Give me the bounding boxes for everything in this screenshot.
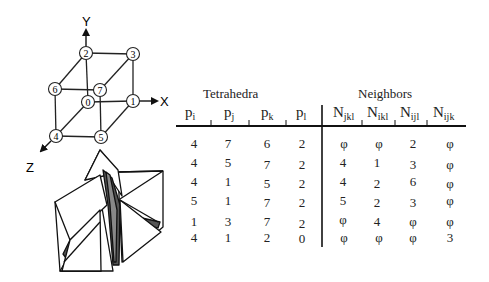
table-cell: φ	[440, 136, 460, 152]
svg-text:0: 0	[86, 97, 91, 108]
header-p-k: pk	[261, 104, 274, 122]
neighbors-title: Neighbors	[358, 86, 412, 102]
table-cell: 4	[367, 214, 387, 230]
header-p-j: pj	[224, 104, 234, 122]
cube-edges	[55, 53, 133, 137]
z-axis-arrow	[41, 141, 51, 151]
svg-text:6: 6	[53, 84, 58, 95]
table-cell: φ	[440, 193, 460, 209]
table-cell: 1	[218, 230, 238, 246]
table-cell: 2	[292, 136, 312, 152]
table-cell: φ	[334, 230, 354, 246]
cube-node-3: 3	[127, 48, 140, 61]
table-cell: 7	[257, 195, 277, 211]
table-cell: 1	[218, 193, 238, 209]
header-p-l: pl	[296, 104, 306, 122]
table-cell: 1	[367, 155, 387, 171]
table-cell: 6	[403, 174, 423, 190]
header-n-ijk: Nijk	[433, 104, 454, 122]
table-cell: 7	[218, 136, 238, 152]
table-cell: 1	[184, 214, 204, 230]
cube-node-6: 6	[49, 83, 62, 96]
svg-text:5: 5	[99, 132, 104, 143]
svg-text:1: 1	[131, 96, 136, 107]
cube-node-5: 5	[95, 131, 108, 144]
cube-node-4: 4	[50, 130, 63, 143]
table-cell: φ	[440, 214, 460, 230]
table-cell: 2	[257, 230, 277, 246]
cube-node-7: 7	[94, 84, 107, 97]
table-cell: 5	[333, 193, 353, 209]
y-axis-label: Y	[82, 14, 91, 29]
table-cell: 2	[367, 176, 387, 192]
z-axis-label: Z	[26, 160, 34, 175]
table-cell: 4	[333, 155, 353, 171]
table-cell: 5	[218, 155, 238, 171]
table-cell: 5	[257, 176, 277, 192]
table-cell: φ	[440, 176, 460, 192]
table-cell: 4	[184, 136, 204, 152]
svg-text:3: 3	[131, 49, 136, 60]
table-cell: 3	[218, 214, 238, 230]
table-cell: φ	[403, 230, 423, 246]
header-n-ijl: Nijl	[400, 104, 419, 122]
table-cell: φ	[369, 230, 389, 246]
table-cell: 3	[440, 230, 460, 246]
cube-node-1: 1	[127, 95, 140, 108]
table-cell: 6	[257, 136, 277, 152]
header-n-jkl: Njkl	[333, 104, 354, 122]
cube-node-0: 0	[82, 96, 95, 109]
table-cell: φ	[403, 214, 423, 230]
cube-node-2: 2	[80, 47, 93, 60]
table-cell: 4	[333, 174, 353, 190]
table-cell: 4	[184, 174, 204, 190]
table-cell: 3	[403, 157, 423, 173]
table-cell: φ	[333, 212, 353, 228]
table-cell: 2	[292, 157, 312, 173]
table-cell: 2	[292, 195, 312, 211]
svg-text:4: 4	[54, 131, 59, 142]
header-p-i: pi	[185, 104, 195, 122]
table-cell: φ	[334, 136, 354, 152]
table-cell: φ	[369, 136, 389, 152]
table-cell: 2	[367, 195, 387, 211]
table-cell: 0	[292, 231, 312, 247]
table-cell: 5	[184, 193, 204, 209]
table-cell: 2	[292, 176, 312, 192]
header-n-ikl: Nikl	[367, 104, 388, 122]
table-cell: 7	[257, 157, 277, 173]
tetrahedra-title: Tetrahedra	[203, 86, 258, 102]
table-cell: 4	[184, 155, 204, 171]
exploded-tetrahedra-illustration	[55, 150, 163, 271]
table-cell: 2	[403, 136, 423, 152]
table-cell: 3	[403, 195, 423, 211]
svg-text:7: 7	[98, 85, 103, 96]
svg-text:2: 2	[84, 48, 89, 59]
table-cell: 4	[184, 230, 204, 246]
table-cell: 2	[292, 216, 312, 232]
table-cell: φ	[440, 157, 460, 173]
table-cell: 1	[218, 174, 238, 190]
table-cell: 7	[257, 214, 277, 230]
x-axis-label: X	[160, 94, 169, 109]
